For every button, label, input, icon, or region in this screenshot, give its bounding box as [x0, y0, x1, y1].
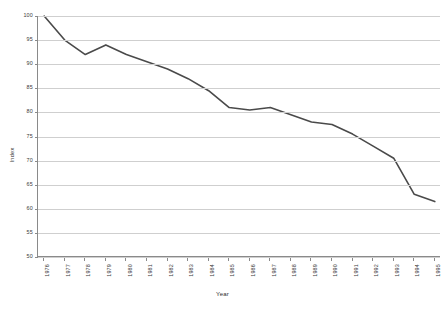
x-tick-label: 1992: [374, 264, 379, 277]
gridline: [38, 64, 440, 65]
gridline: [38, 137, 440, 138]
y-tick-label: 75: [27, 134, 33, 139]
y-tick-label: 70: [27, 158, 33, 163]
x-tick-label: 1984: [210, 264, 215, 277]
x-tick-mark: [331, 258, 332, 261]
y-tick-mark: [35, 88, 38, 89]
y-tick-label: 95: [27, 37, 33, 42]
x-tick-mark: [413, 258, 414, 261]
y-tick-label: 100: [23, 13, 33, 18]
y-tick-label: 90: [27, 61, 33, 66]
x-tick-label: 1980: [128, 264, 133, 277]
x-tick-mark: [434, 258, 435, 261]
index-line-path: [44, 16, 435, 202]
x-tick-mark: [125, 258, 126, 261]
x-tick-mark: [64, 258, 65, 261]
x-tick-label: 1976: [45, 264, 50, 277]
x-tick-label: 1981: [148, 264, 153, 277]
plot-area: 50556065707580859095100: [37, 16, 440, 257]
x-tick-mark: [146, 258, 147, 261]
x-tick-mark: [352, 258, 353, 261]
y-tick-label: 80: [27, 110, 33, 115]
x-tick-label: 1993: [395, 264, 400, 277]
y-tick-label: 50: [27, 254, 33, 259]
x-tick-mark: [43, 258, 44, 261]
x-tick-mark: [372, 258, 373, 261]
line-chart: Index 50556065707580859095100 1976197719…: [0, 0, 445, 309]
x-tick-label: 1977: [66, 264, 71, 277]
x-tick-mark: [208, 258, 209, 261]
y-tick-mark: [35, 137, 38, 138]
x-tick-mark: [393, 258, 394, 261]
x-tick-label: 1988: [292, 264, 297, 277]
y-axis-title: Index: [9, 147, 15, 162]
x-tick-label: 1991: [354, 264, 359, 277]
y-tick-label: 65: [27, 182, 33, 187]
gridline: [38, 209, 440, 210]
x-tick-mark: [290, 258, 291, 261]
x-tick-label: 1985: [230, 264, 235, 277]
y-tick-mark: [35, 185, 38, 186]
x-axis-labels: 1976197719781979198019811982198319841985…: [37, 258, 440, 288]
x-tick-mark: [269, 258, 270, 261]
y-tick-label: 55: [27, 230, 33, 235]
x-tick-mark: [105, 258, 106, 261]
x-tick-label: 1978: [86, 264, 91, 277]
gridline: [38, 40, 440, 41]
x-tick-mark: [310, 258, 311, 261]
x-tick-label: 1989: [313, 264, 318, 277]
y-tick-label: 85: [27, 86, 33, 91]
x-tick-label: 1994: [415, 264, 420, 277]
x-tick-label: 1979: [107, 264, 112, 277]
x-tick-label: 1990: [333, 264, 338, 277]
x-axis-title: Year: [0, 291, 445, 297]
gridline: [38, 161, 440, 162]
x-tick-label: 1982: [169, 264, 174, 277]
x-tick-mark: [249, 258, 250, 261]
x-tick-label: 1986: [251, 264, 256, 277]
y-tick-mark: [35, 161, 38, 162]
x-tick-mark: [228, 258, 229, 261]
gridline: [38, 233, 440, 234]
x-tick-mark: [84, 258, 85, 261]
gridline: [38, 88, 440, 89]
x-tick-label: 1995: [436, 264, 441, 277]
y-tick-mark: [35, 112, 38, 113]
gridline: [38, 112, 440, 113]
x-tick-mark: [167, 258, 168, 261]
y-tick-mark: [35, 40, 38, 41]
y-tick-mark: [35, 16, 38, 17]
y-tick-mark: [35, 233, 38, 234]
y-tick-mark: [35, 209, 38, 210]
x-tick-mark: [187, 258, 188, 261]
gridline: [38, 16, 440, 17]
x-tick-label: 1983: [189, 264, 194, 277]
y-tick-mark: [35, 64, 38, 65]
y-tick-label: 60: [27, 206, 33, 211]
x-tick-label: 1987: [272, 264, 277, 277]
gridline: [38, 185, 440, 186]
